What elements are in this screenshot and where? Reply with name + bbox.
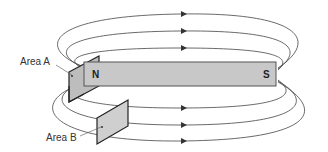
lower-arrow-heads — [181, 105, 187, 144]
arrow-icon — [181, 122, 187, 128]
bar-magnet — [84, 62, 276, 86]
area-b-point — [101, 126, 103, 128]
area-a-leader — [56, 65, 72, 75]
arrow-icon — [181, 45, 187, 51]
magnet-field-diagram: N S Area A Area B — [0, 0, 328, 152]
arrow-icon — [181, 138, 187, 144]
arrow-icon — [181, 11, 187, 17]
south-pole-label: S — [263, 69, 270, 80]
area-a-label: Area A — [20, 56, 50, 67]
area-b-label: Area B — [46, 132, 77, 143]
area-a-point — [71, 75, 73, 77]
north-pole-label: N — [92, 69, 99, 80]
arrow-icon — [181, 105, 187, 111]
upper-arrow-heads — [181, 11, 187, 51]
arrow-icon — [181, 28, 187, 34]
